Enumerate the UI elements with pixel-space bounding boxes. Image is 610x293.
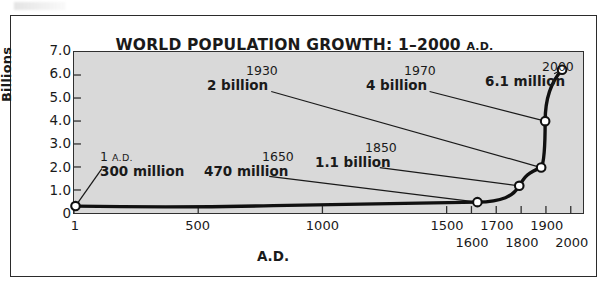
data-point-1650 [473, 198, 482, 206]
x-tick-label: 1800 [505, 235, 538, 250]
y-tick-label: 1.0 [37, 182, 71, 198]
y-tick-label: 2.0 [37, 159, 71, 175]
data-point-1970 [541, 117, 550, 125]
y-tick-label: 4.0 [37, 112, 71, 128]
annotation-2000: 2000 6.1 million [485, 60, 574, 89]
y-axis-title: Billions [0, 47, 14, 102]
x-tick-label: 1500 [431, 218, 464, 233]
annotation-1930: 1930 2 billion [207, 64, 278, 93]
leader-lines [75, 70, 562, 206]
scan-artifact [14, 2, 66, 10]
x-axis-title: A.D. [73, 248, 473, 264]
annotation-2000-value: 6.1 million [485, 74, 574, 89]
y-tick-label: 5.0 [37, 89, 71, 105]
population-curve [75, 70, 562, 207]
annotation-1850: 1850 1.1 billion [315, 141, 397, 170]
annotation-1650: 1650 470 million [204, 150, 294, 179]
annotation-1650-value: 470 million [204, 164, 294, 179]
y-tick-label: 0 [37, 205, 71, 221]
leader-line-1850 [380, 168, 519, 186]
x-tick-label: 1900 [530, 218, 563, 233]
figure-root: WORLD POPULATION GROWTH: 1–2000 A.D. Bil… [0, 0, 610, 293]
leader-line-1930 [271, 92, 541, 168]
y-tick-label: 3.0 [37, 135, 71, 151]
leader-line-1650 [269, 176, 477, 202]
x-tick-label: 1000 [306, 218, 339, 233]
y-tick-label: 6.0 [37, 65, 71, 81]
y-tick-marks [74, 75, 81, 190]
annotation-1970-year: 1970 [404, 64, 436, 78]
data-point-1930 [537, 163, 546, 171]
plot-area: 1 A.D. 300 million 1650 470 million 1850… [73, 51, 584, 214]
x-tick-label: 1700 [480, 218, 513, 233]
leader-line-1970 [430, 92, 546, 122]
annotation-1970: 1970 4 billion [366, 64, 436, 93]
data-point-1ad [71, 202, 80, 210]
data-point-1850 [515, 182, 524, 190]
leader-line-1ad [75, 169, 101, 207]
annotation-1970-value: 4 billion [366, 78, 436, 93]
annotation-1930-value: 2 billion [207, 78, 278, 93]
annotation-1650-year: 1650 [262, 150, 294, 164]
annotation-1850-value: 1.1 billion [315, 155, 397, 170]
y-tick-label: 7.0 [37, 42, 71, 58]
annotation-2000-year: 2000 [542, 60, 574, 74]
x-tick-label: 1 [71, 218, 79, 233]
annotation-1850-year: 1850 [365, 141, 397, 155]
x-tick-label: 2000 [555, 235, 588, 250]
x-tick-label: 500 [185, 218, 210, 233]
annotation-1ad-value: 300 million [100, 164, 184, 179]
annotation-1ad: 1 A.D. 300 million [100, 150, 184, 179]
y-axis-tick-labels: 7.0 6.0 5.0 4.0 3.0 2.0 1.0 0 [31, 51, 71, 214]
chart-frame: WORLD POPULATION GROWTH: 1–2000 A.D. Bil… [10, 15, 597, 277]
annotation-1930-year: 1930 [246, 64, 278, 78]
annotation-1ad-year: 1 A.D. [100, 150, 184, 164]
